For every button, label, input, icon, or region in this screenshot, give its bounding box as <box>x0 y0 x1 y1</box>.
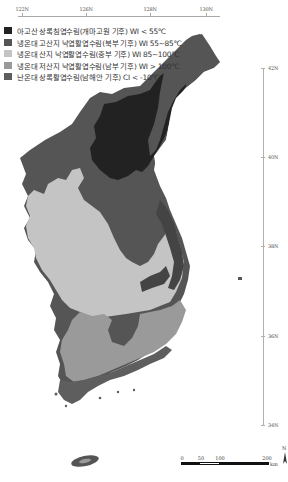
island <box>133 389 135 391</box>
island <box>117 391 119 393</box>
legend-swatch <box>4 50 12 57</box>
legend-label: 냉온대 산지 낙엽활엽수림(중부 기후) WI 85~100℃ <box>17 48 179 59</box>
north-arrow-icon <box>281 446 288 466</box>
legend-label: 냉온대 고산지 낙엽활엽수림(북부 기후) WI 55~85℃ <box>17 37 182 48</box>
map-legend: 아고산 상록침엽수림(개마고원 기후) WI < 55℃ 냉온대 고산지 낙엽활… <box>4 25 182 83</box>
scale-tick-label: 0 <box>180 455 183 461</box>
legend-item: 냉온대 저산지 낙엽활엽수림(남부 기후) WI > 100℃ <box>4 60 182 72</box>
legend-item: 아고산 상록침엽수림(개마고원 기후) WI < 55℃ <box>4 25 182 37</box>
island <box>55 393 58 396</box>
scale-segment <box>181 462 200 465</box>
legend-swatch <box>4 62 12 69</box>
legend-item: 냉온대 고산지 낙엽활엽수림(북부 기후) WI 55~85℃ <box>4 37 182 49</box>
ulleungdo-island <box>238 277 242 280</box>
legend-item: 난온대 상록활엽수림(남해안 기후) CI < -10℃ <box>4 71 182 83</box>
legend-swatch <box>4 27 12 34</box>
scale-tick-label: 50 <box>198 455 204 461</box>
scale-segment <box>200 462 219 465</box>
legend-item: 냉온대 산지 낙엽활엽수림(중부 기후) WI 85~100℃ <box>4 48 182 60</box>
scale-unit: km <box>270 461 278 467</box>
legend-swatch <box>4 39 12 46</box>
legend-swatch <box>4 73 12 80</box>
island <box>99 397 102 400</box>
scale-segment <box>219 462 269 465</box>
legend-label: 난온대 상록활엽수림(남해안 기후) CI < -10℃ <box>17 71 159 82</box>
island <box>65 405 67 407</box>
legend-label: 아고산 상록침엽수림(개마고원 기후) WI < 55℃ <box>17 25 166 36</box>
scale-tick-label: 100 <box>215 455 225 461</box>
legend-label: 냉온대 저산지 낙엽활엽수림(남부 기후) WI > 100℃ <box>17 60 179 71</box>
